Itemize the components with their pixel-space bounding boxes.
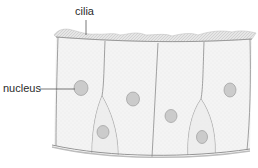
nucleus-label: nucleus bbox=[3, 83, 41, 94]
nucleus-basal-2 bbox=[197, 131, 208, 144]
nucleus-2 bbox=[127, 92, 140, 106]
nucleus-1 bbox=[74, 81, 88, 96]
nucleus-3 bbox=[165, 110, 177, 123]
nucleus-basal-1 bbox=[97, 126, 109, 139]
cilia-label: cilia bbox=[75, 6, 94, 17]
nucleus-4 bbox=[224, 83, 236, 97]
